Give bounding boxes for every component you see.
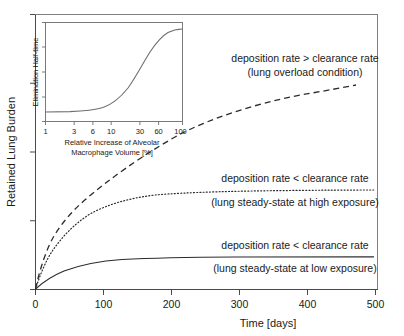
inset-y-axis-title: Elimination Half-time [31, 38, 40, 107]
x-axis-title: Time [days] [240, 317, 296, 329]
x-tick-label-2: 200 [163, 298, 181, 310]
x-axis-ticks: 0 100 200 300 400 500 [33, 289, 385, 310]
figure-container: 0 100 200 300 400 500 Time [days] Retain… [0, 0, 404, 336]
x-tick-label-3: 300 [231, 298, 249, 310]
annotation-high-exposure-line1: deposition rate < clearance rate [221, 172, 369, 184]
inset-x-tick-label-0: 1 [43, 127, 47, 136]
x-tick-label-0: 0 [33, 298, 39, 310]
inset-x-tick-label-3: 10 [107, 127, 115, 136]
annotation-overload-line2: (lung overload condition) [248, 66, 363, 78]
inset-x-tick-label-1: 3 [72, 127, 76, 136]
x-tick-label-4: 400 [299, 298, 317, 310]
inset-x-tick-label-6: 100 [174, 127, 187, 136]
inset-x-tick-label-5: 60 [154, 127, 162, 136]
x-tick-label-5: 500 [367, 298, 385, 310]
inset-x-tick-label-4: 30 [136, 127, 144, 136]
annotation-overload-line1: deposition rate > clearance rate [231, 52, 379, 64]
chart-svg: 0 100 200 300 400 500 Time [days] Retain… [0, 0, 404, 336]
x-tick-label-1: 100 [95, 298, 113, 310]
annotation-lung-overload: deposition rate > clearance rate (lung o… [231, 52, 379, 78]
inset-x-tick-label-2: 6 [91, 127, 95, 136]
inset-x-ticks: 1 3 6 10 30 60 100 [43, 122, 186, 137]
inset-x-axis-title-line1: Relative Increase of Alveolar [64, 138, 160, 147]
inset-x-axis-title-line2: Macrophage Volume [%] [71, 148, 153, 157]
inset-y-ticks [42, 23, 46, 122]
annotation-low-exposure-line1: deposition rate < clearance rate [221, 239, 369, 251]
inset-chart: 1 3 6 10 30 60 100 Elimination Half-time… [31, 23, 187, 158]
y-axis-title: Retained Lung Burden [5, 97, 17, 207]
annotation-low-exposure-line2: (lung steady-state at low exposure) [213, 262, 376, 274]
annotation-high-exposure-line2: (lung steady-state at high exposure) [211, 196, 379, 208]
